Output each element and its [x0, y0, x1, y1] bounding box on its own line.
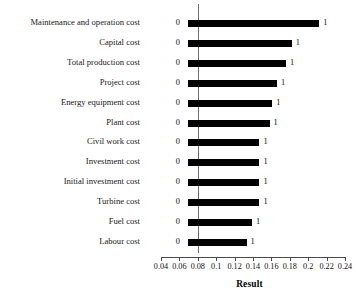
bar [188, 199, 260, 206]
bar-right-label: 1 [256, 217, 260, 227]
category-label: Fuel cost [109, 216, 140, 226]
bar-left-label: 0 [176, 157, 180, 167]
bar-left-label: 0 [176, 58, 180, 68]
bar-right-label: 1 [263, 157, 267, 167]
axis-title: Result [143, 279, 356, 289]
bar-row: 01 [143, 173, 356, 193]
axis-tick [345, 257, 346, 261]
bar-row: 01 [143, 114, 356, 134]
bar-row: 01 [143, 193, 356, 213]
bar-row: 01 [143, 74, 356, 94]
bar-left-label: 0 [176, 78, 180, 88]
bar-left-label: 0 [176, 177, 180, 187]
bar-right-label: 1 [251, 237, 255, 247]
bar-right-label: 1 [323, 18, 327, 28]
axis-tick [179, 257, 180, 261]
bar-row: 01 [143, 233, 356, 253]
bar-right-label: 1 [263, 137, 267, 147]
bar [188, 60, 286, 67]
axis-tick [271, 257, 272, 261]
bar-right-label: 1 [276, 98, 280, 108]
bar-row: 01 [143, 34, 356, 54]
bar-left-label: 0 [176, 197, 180, 207]
bar-left-label: 0 [176, 137, 180, 147]
bar-right-label: 1 [263, 197, 267, 207]
bar-left-label: 0 [176, 237, 180, 247]
category-label: Total production cost [67, 57, 140, 67]
bar [188, 100, 273, 107]
category-label: Investment cost [86, 156, 140, 166]
bar [188, 20, 320, 27]
category-label: Capital cost [99, 37, 140, 47]
bar-right-label: 1 [281, 78, 285, 88]
axis-tick [198, 257, 199, 261]
axis-tick [290, 257, 291, 261]
bar-left-label: 0 [176, 38, 180, 48]
category-label: Project cost [100, 77, 140, 87]
bar-row: 01 [143, 94, 356, 114]
category-label: Civil work cost [87, 136, 140, 146]
bar [188, 139, 260, 146]
category-label: Turbine cost [97, 196, 140, 206]
bar [188, 40, 292, 47]
axis-tick [327, 257, 328, 261]
axis-tick-label: 0.24 [334, 262, 356, 272]
bar-left-label: 0 [176, 217, 180, 227]
bar-left-label: 0 [176, 18, 180, 28]
bar-row: 01 [143, 54, 356, 74]
category-label: Plant cost [106, 117, 140, 127]
category-axis-labels: Maintenance and operation costCapital co… [0, 0, 143, 258]
category-label: Initial investment cost [64, 176, 140, 186]
bar-row: 01 [143, 153, 356, 173]
axis-tick [216, 257, 217, 261]
bar [188, 219, 252, 226]
axis-tick [308, 257, 309, 261]
category-label: Labour cost [99, 236, 140, 246]
bar-right-label: 1 [274, 118, 278, 128]
bar-row: 01 [143, 14, 356, 34]
category-label: Energy equipment cost [61, 97, 140, 107]
bar-row: 01 [143, 213, 356, 233]
bar [188, 120, 270, 127]
axis-tick [253, 257, 254, 261]
bar [188, 239, 247, 246]
bar-left-label: 0 [176, 118, 180, 128]
bar-right-label: 1 [263, 177, 267, 187]
axis-tick [161, 257, 162, 261]
bar [188, 80, 277, 87]
bar [188, 159, 260, 166]
category-label: Maintenance and operation cost [30, 17, 140, 27]
bar-row: 01 [143, 133, 356, 153]
bar [188, 179, 260, 186]
bar-right-label: 1 [290, 58, 294, 68]
value-axis: Result 0.040.060.080.10.120.140.160.180.… [143, 257, 356, 306]
plot-area: 010101010101010101010101 [143, 0, 356, 258]
horizontal-bar-chart: Maintenance and operation costCapital co… [0, 0, 356, 306]
axis-tick [235, 257, 236, 261]
bar-left-label: 0 [176, 98, 180, 108]
bar-right-label: 1 [296, 38, 300, 48]
